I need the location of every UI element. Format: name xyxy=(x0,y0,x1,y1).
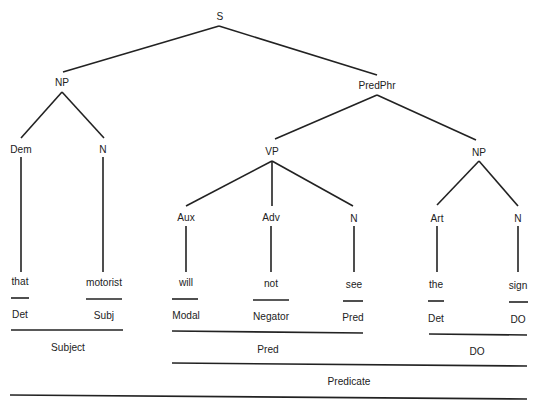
node-np-subject: NP xyxy=(55,76,69,89)
node-n-verb: N xyxy=(350,212,357,225)
word-that: that xyxy=(12,275,29,288)
function-det-object: Det xyxy=(428,312,444,325)
syntax-tree-diagram: S NP PredPhr Dem N VP NP Aux Adv N Art N… xyxy=(0,0,537,407)
function-subj: Subj xyxy=(94,309,114,322)
node-predphr: PredPhr xyxy=(358,79,395,92)
node-n-object: N xyxy=(514,212,521,225)
function-det: Det xyxy=(12,308,28,321)
group-predicate: Predicate xyxy=(328,375,371,388)
node-adv: Adv xyxy=(262,211,279,224)
node-np-object: NP xyxy=(472,146,486,159)
group-pred: Pred xyxy=(257,343,278,356)
function-pred: Pred xyxy=(342,311,363,324)
node-s: S xyxy=(217,10,224,23)
word-motorist: motorist xyxy=(86,276,122,289)
word-not: not xyxy=(264,277,278,290)
word-will: will xyxy=(179,276,193,289)
word-the: the xyxy=(429,278,443,291)
group-do: DO xyxy=(469,345,484,358)
function-do: DO xyxy=(510,313,525,326)
function-modal: Modal xyxy=(172,309,200,322)
node-dem: Dem xyxy=(10,143,31,156)
function-negator: Negator xyxy=(253,310,289,323)
group-subject: Subject xyxy=(51,341,85,354)
node-n-subject: N xyxy=(99,143,106,156)
word-see: see xyxy=(346,278,362,291)
node-art: Art xyxy=(431,212,444,225)
word-sign: sign xyxy=(509,279,528,292)
node-aux: Aux xyxy=(177,211,194,224)
node-vp: VP xyxy=(265,145,279,158)
